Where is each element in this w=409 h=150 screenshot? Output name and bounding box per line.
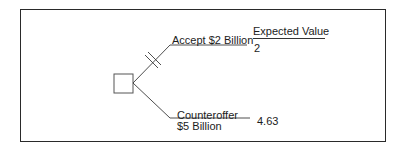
branch-accept-label: Accept $2 Billion: [172, 34, 253, 46]
pruned-branch-hash-icon: [145, 52, 161, 68]
expected-value-header: Expected Value: [253, 25, 329, 37]
expected-value-underline: [253, 38, 325, 39]
decision-node-square: [114, 74, 133, 93]
branch-counteroffer-expected-value: 4.63: [257, 115, 278, 127]
branch-accept-expected-value: 2: [254, 42, 260, 54]
branch-accept: [133, 45, 247, 83]
branch-counteroffer-label-line2: $5 Billion: [177, 120, 222, 132]
